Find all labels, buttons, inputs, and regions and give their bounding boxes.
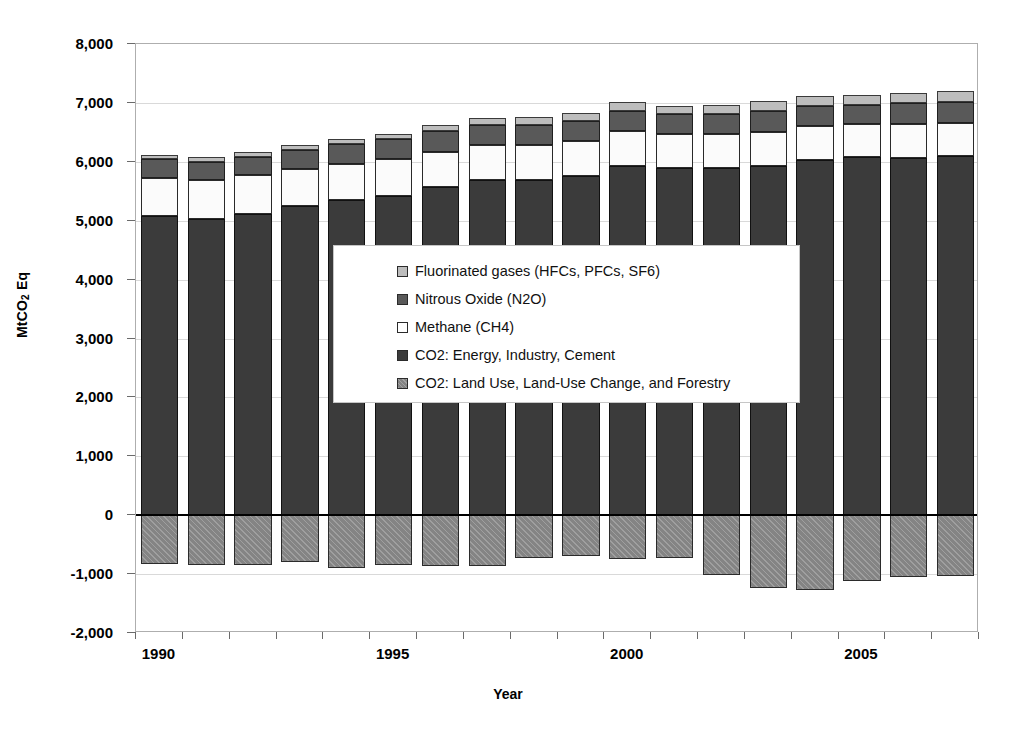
- bar-segment-nitrous-oxide[interactable]: [281, 150, 318, 169]
- bar-segment-methane[interactable]: [375, 159, 412, 196]
- bar-segment-co2-lulucf[interactable]: [796, 515, 833, 590]
- bar-segment-fluorinated-gases[interactable]: [750, 101, 787, 110]
- bar-segment-co2-energy[interactable]: [843, 157, 880, 515]
- bar-group[interactable]: [188, 44, 225, 631]
- legend-item[interactable]: Methane (CH4): [397, 313, 799, 341]
- bar-segment-methane[interactable]: [188, 180, 225, 219]
- legend-item[interactable]: Fluorinated gases (HFCs, PFCs, SF6): [397, 257, 799, 285]
- bar-segment-co2-energy[interactable]: [188, 219, 225, 515]
- bar-segment-methane[interactable]: [609, 131, 646, 166]
- y-axis-tick-mark: [127, 220, 135, 221]
- x-axis-tick-label: 1995: [376, 645, 409, 662]
- bar-segment-co2-energy[interactable]: [234, 214, 271, 515]
- bar-segment-methane[interactable]: [281, 169, 318, 206]
- bar-segment-fluorinated-gases[interactable]: [328, 139, 365, 144]
- bar-segment-fluorinated-gases[interactable]: [843, 95, 880, 105]
- bar-segment-co2-energy[interactable]: [937, 156, 974, 515]
- bar-segment-fluorinated-gases[interactable]: [562, 113, 599, 121]
- bar-segment-fluorinated-gases[interactable]: [188, 157, 225, 162]
- bar-segment-methane[interactable]: [469, 145, 506, 180]
- bar-segment-fluorinated-gases[interactable]: [141, 155, 178, 160]
- bar-segment-co2-lulucf[interactable]: [890, 515, 927, 577]
- bar-segment-fluorinated-gases[interactable]: [937, 91, 974, 102]
- y-axis-tick-label: 7,000: [75, 94, 113, 109]
- bar-segment-methane[interactable]: [515, 145, 552, 180]
- bar-segment-fluorinated-gases[interactable]: [281, 145, 318, 150]
- bar-group[interactable]: [890, 44, 927, 631]
- bar-segment-co2-lulucf[interactable]: [375, 515, 412, 565]
- bar-segment-co2-lulucf[interactable]: [281, 515, 318, 562]
- bar-segment-fluorinated-gases[interactable]: [890, 93, 927, 104]
- bar-segment-co2-energy[interactable]: [890, 158, 927, 516]
- bar-segment-methane[interactable]: [328, 164, 365, 201]
- bar-segment-nitrous-oxide[interactable]: [656, 114, 693, 133]
- bar-group[interactable]: [843, 44, 880, 631]
- bar-segment-methane[interactable]: [843, 124, 880, 157]
- legend-item[interactable]: Nitrous Oxide (N2O): [397, 285, 799, 313]
- bar-segment-nitrous-oxide[interactable]: [375, 139, 412, 159]
- bar-segment-nitrous-oxide[interactable]: [796, 106, 833, 126]
- bar-segment-fluorinated-gases[interactable]: [656, 106, 693, 114]
- bar-segment-fluorinated-gases[interactable]: [375, 134, 412, 139]
- bar-segment-nitrous-oxide[interactable]: [843, 105, 880, 124]
- bar-segment-nitrous-oxide[interactable]: [750, 111, 787, 132]
- bar-segment-methane[interactable]: [234, 175, 271, 214]
- bar-segment-co2-lulucf[interactable]: [843, 515, 880, 580]
- bar-segment-nitrous-oxide[interactable]: [422, 131, 459, 152]
- bar-segment-nitrous-oxide[interactable]: [469, 125, 506, 146]
- x-axis-tick-mark: [182, 632, 183, 639]
- bar-segment-fluorinated-gases[interactable]: [609, 102, 646, 111]
- bar-segment-methane[interactable]: [656, 134, 693, 168]
- bar-segment-co2-lulucf[interactable]: [141, 515, 178, 564]
- bar-segment-methane[interactable]: [890, 124, 927, 158]
- bar-segment-co2-energy[interactable]: [141, 216, 178, 515]
- bar-segment-co2-energy[interactable]: [281, 206, 318, 515]
- x-axis-tick-mark: [510, 632, 511, 639]
- bar-segment-co2-lulucf[interactable]: [469, 515, 506, 566]
- y-axis-tick-label: 0: [105, 507, 113, 522]
- bar-segment-fluorinated-gases[interactable]: [469, 118, 506, 124]
- bar-segment-nitrous-oxide[interactable]: [609, 111, 646, 132]
- bar-segment-nitrous-oxide[interactable]: [141, 159, 178, 177]
- bar-group[interactable]: [937, 44, 974, 631]
- bar-segment-nitrous-oxide[interactable]: [328, 144, 365, 163]
- bar-segment-fluorinated-gases[interactable]: [422, 125, 459, 131]
- bar-segment-co2-lulucf[interactable]: [515, 515, 552, 557]
- bar-segment-fluorinated-gases[interactable]: [515, 117, 552, 125]
- bar-segment-nitrous-oxide[interactable]: [515, 125, 552, 145]
- bar-segment-co2-lulucf[interactable]: [703, 515, 740, 574]
- legend-item[interactable]: CO2: Energy, Industry, Cement: [397, 341, 799, 369]
- bar-segment-co2-lulucf[interactable]: [328, 515, 365, 567]
- bar-segment-co2-lulucf[interactable]: [562, 515, 599, 556]
- bar-segment-co2-lulucf[interactable]: [188, 515, 225, 564]
- bar-segment-nitrous-oxide[interactable]: [890, 103, 927, 124]
- bar-segment-methane[interactable]: [562, 141, 599, 176]
- bar-segment-nitrous-oxide[interactable]: [562, 121, 599, 141]
- bar-segment-methane[interactable]: [750, 132, 787, 166]
- bar-group[interactable]: [141, 44, 178, 631]
- bar-group[interactable]: [796, 44, 833, 631]
- bar-segment-co2-lulucf[interactable]: [609, 515, 646, 559]
- bar-group[interactable]: [234, 44, 271, 631]
- bar-segment-fluorinated-gases[interactable]: [234, 152, 271, 157]
- bar-group[interactable]: [281, 44, 318, 631]
- bar-segment-co2-energy[interactable]: [796, 160, 833, 515]
- bar-segment-methane[interactable]: [422, 152, 459, 187]
- bar-segment-methane[interactable]: [796, 126, 833, 160]
- bar-segment-co2-lulucf[interactable]: [656, 515, 693, 558]
- bar-segment-methane[interactable]: [141, 178, 178, 216]
- bar-segment-nitrous-oxide[interactable]: [937, 102, 974, 123]
- bar-segment-nitrous-oxide[interactable]: [234, 157, 271, 175]
- bar-segment-fluorinated-gases[interactable]: [796, 96, 833, 106]
- bar-segment-fluorinated-gases[interactable]: [703, 105, 740, 114]
- bar-segment-nitrous-oxide[interactable]: [703, 114, 740, 134]
- bar-segment-co2-lulucf[interactable]: [234, 515, 271, 565]
- bar-segment-co2-lulucf[interactable]: [937, 515, 974, 576]
- legend-item[interactable]: CO2: Land Use, Land-Use Change, and Fore…: [397, 369, 799, 397]
- bar-segment-methane[interactable]: [937, 123, 974, 156]
- bar-segment-co2-lulucf[interactable]: [750, 515, 787, 587]
- bar-segment-co2-lulucf[interactable]: [422, 515, 459, 566]
- legend-item-label: Nitrous Oxide (N2O): [415, 292, 546, 307]
- bar-segment-nitrous-oxide[interactable]: [188, 162, 225, 180]
- bar-segment-methane[interactable]: [703, 134, 740, 168]
